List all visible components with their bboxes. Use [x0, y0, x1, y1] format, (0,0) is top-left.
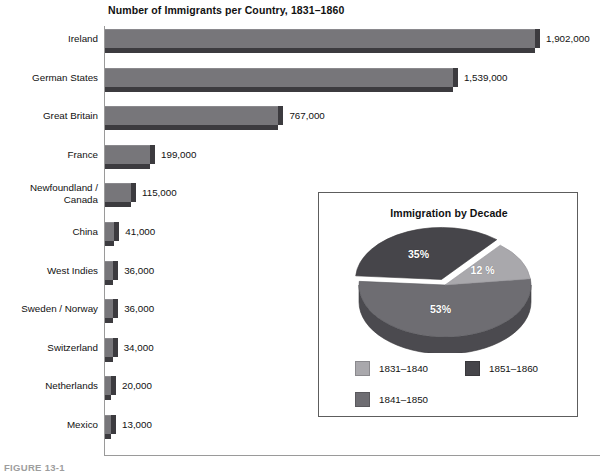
bar-face	[105, 338, 113, 358]
bar-row: Great Britain767,000	[0, 106, 604, 144]
bar-value-label: 41,000	[125, 226, 155, 237]
bar-face	[105, 68, 453, 88]
bar-category-label: Newfoundland / Canada	[0, 182, 98, 205]
bar-category-label: German States	[0, 72, 98, 84]
bar-value-label: 36,000	[124, 265, 154, 276]
bar-face	[105, 145, 150, 165]
bar-shadow	[105, 164, 150, 169]
bar	[105, 29, 540, 57]
bar-shadow	[105, 202, 131, 207]
bar-category-label: France	[0, 149, 98, 161]
x-axis-line	[104, 455, 600, 456]
pie-inset-panel: Immigration by Decade	[318, 192, 578, 417]
bar-category-label: Great Britain	[0, 110, 98, 122]
pie-chart: 35% 12 % 53%	[333, 225, 565, 353]
legend-label-1841-1850: 1841–1850	[379, 394, 428, 405]
bar-shadow	[105, 125, 278, 130]
bar-row: German States1,539,000	[0, 68, 604, 106]
legend-swatch-1841-1850	[355, 392, 370, 407]
bar-shadow	[105, 280, 113, 285]
bar-face	[105, 222, 114, 242]
bar-end-cap	[113, 338, 118, 357]
figure-container: Number of Immigrants per Country, 1831–1…	[0, 0, 604, 472]
bar-shadow	[105, 357, 113, 362]
legend-label-1831-1840: 1831–1840	[379, 363, 428, 374]
bar-shadow	[105, 434, 111, 439]
bar-end-cap	[150, 145, 155, 164]
bar	[105, 261, 118, 289]
bar-face	[105, 299, 113, 319]
bar-face	[105, 183, 131, 203]
figure-caption: FIGURE 13-1	[4, 462, 65, 472]
bar-category-label: Netherlands	[0, 380, 98, 392]
bar-row: Mexico13,000	[0, 415, 604, 453]
bar-end-cap	[453, 68, 458, 87]
bar	[105, 68, 458, 96]
bar-shadow	[105, 241, 114, 246]
bar	[105, 222, 119, 250]
bar-value-label: 199,000	[161, 149, 196, 160]
bar-face	[105, 29, 535, 49]
legend-label-1851-1860: 1851–1860	[489, 363, 538, 374]
bar-shadow	[105, 395, 111, 400]
bar-value-label: 36,000	[124, 303, 154, 314]
bar	[105, 106, 283, 134]
bar-shadow	[105, 48, 535, 53]
bar-face	[105, 261, 113, 281]
legend-swatch-1831-1840	[355, 361, 370, 376]
bar-shadow	[105, 318, 113, 323]
bar-end-cap	[113, 299, 118, 318]
bar	[105, 415, 116, 443]
pie-top-faces	[356, 227, 531, 337]
bar-end-cap	[131, 183, 136, 202]
bar-chart-title: Number of Immigrants per Country, 1831–1…	[108, 4, 344, 16]
bar	[105, 376, 116, 404]
pie-chart-title: Immigration by Decade	[319, 207, 579, 219]
bar-end-cap	[113, 261, 118, 280]
bar-category-label: Mexico	[0, 419, 98, 431]
pie-label-1851-1860: 35%	[408, 248, 429, 260]
bar-value-label: 1,902,000	[546, 33, 590, 44]
bar-category-label: Ireland	[0, 33, 98, 45]
bar-row: France199,000	[0, 145, 604, 183]
bar-value-label: 115,000	[142, 187, 177, 198]
bar	[105, 338, 118, 366]
bar	[105, 145, 155, 173]
bar-value-label: 34,000	[124, 342, 154, 353]
bar	[105, 183, 136, 211]
bar-value-label: 1,539,000	[464, 72, 508, 83]
bar-category-label: Sweden / Norway	[0, 303, 98, 315]
pie-svg	[333, 225, 565, 353]
pie-label-1841-1850: 53%	[430, 303, 451, 315]
bar-category-label: West Indies	[0, 265, 98, 277]
bar-category-label: Switzerland	[0, 342, 98, 354]
bar-end-cap	[535, 29, 540, 48]
bar-category-label: China	[0, 226, 98, 238]
bar-shadow	[105, 87, 453, 92]
bar-value-label: 20,000	[122, 380, 152, 391]
bar-value-label: 13,000	[122, 419, 152, 430]
bar-end-cap	[111, 376, 116, 395]
bar-end-cap	[111, 415, 116, 434]
bar	[105, 299, 118, 327]
bar-row: Ireland1,902,000	[0, 29, 604, 67]
legend-swatch-1851-1860	[465, 361, 480, 376]
pie-label-1831-1840: 12 %	[471, 264, 495, 276]
bar-face	[105, 106, 278, 126]
bar-end-cap	[114, 222, 119, 241]
bar-end-cap	[278, 106, 283, 125]
bar-value-label: 767,000	[289, 110, 324, 121]
